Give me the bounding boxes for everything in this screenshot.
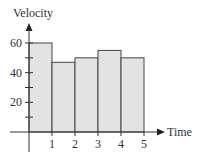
y-axis-arrow-icon [26,23,33,31]
bar-3 [75,58,98,132]
x-tick-label-5: 5 [141,137,147,151]
y-tick-label-60: 60 [10,36,22,50]
bars [29,43,144,132]
x-tick-label-2: 2 [72,137,78,151]
x-tick-label-1: 1 [49,137,55,151]
bar-2 [52,62,75,132]
x-ticks: 12345 [49,132,147,151]
bar-5 [121,58,144,132]
x-tick-label-3: 3 [95,137,101,151]
x-axis-label: Time [167,125,192,139]
x-axis-arrow-icon [157,129,165,136]
y-axis-label: Velocity [13,6,53,20]
bar-4 [98,50,121,132]
y-tick-label-40: 40 [10,66,22,80]
velocity-time-chart: 204060 12345 Velocity Time [0,0,198,163]
y-tick-label-20: 20 [10,95,22,109]
x-tick-label-4: 4 [118,137,124,151]
